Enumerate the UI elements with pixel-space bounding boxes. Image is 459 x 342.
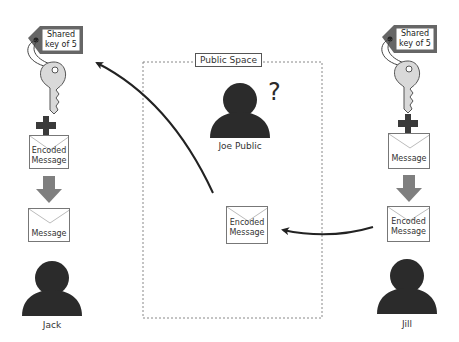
question-mark: ? [268, 78, 281, 106]
down-arrow-icon [36, 176, 62, 204]
joe-public-person-icon [208, 78, 272, 138]
jill-person-icon [375, 256, 439, 314]
flow-arrow-jill-to-public [283, 227, 373, 234]
jack-encoded-envelope: Encoded Message [29, 135, 69, 169]
plus-icon [398, 114, 418, 134]
plus-icon [36, 116, 56, 136]
key-icon [14, 36, 74, 116]
jill-encoded-envelope: Encoded Message [387, 206, 430, 242]
jack-person-icon [20, 258, 84, 316]
key-icon [368, 35, 428, 115]
jack-message-envelope: Message [28, 208, 70, 242]
jack-name: Jack [22, 320, 82, 330]
down-arrow-icon [396, 175, 422, 203]
public-space-label: Public Space [195, 53, 262, 67]
public-encoded-envelope: Encoded Message [226, 206, 268, 244]
flow-arrow-public-to-jack [97, 63, 213, 193]
joe-public-name: Joe Public [210, 141, 270, 151]
jill-message-envelope: Message [388, 133, 430, 169]
jill-name: Jill [377, 319, 437, 329]
